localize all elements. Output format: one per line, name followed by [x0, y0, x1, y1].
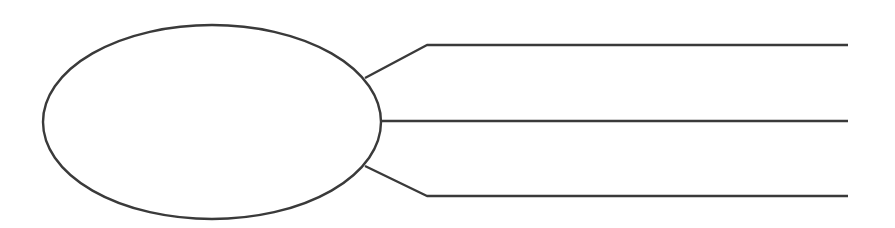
detail-line-3	[365, 166, 848, 196]
central-idea-ellipse	[43, 25, 381, 219]
main-idea-diagram	[0, 0, 895, 228]
detail-line-1	[365, 45, 848, 78]
